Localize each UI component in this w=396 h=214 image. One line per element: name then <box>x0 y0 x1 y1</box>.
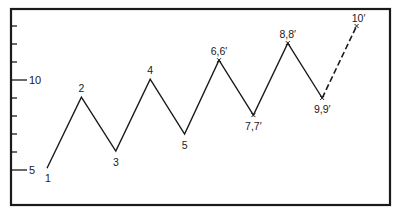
y-tick-label: 10 <box>29 74 41 86</box>
point-labels: 123456,6′7,7′8,8′9,9′10′ <box>45 12 365 184</box>
y-tick-label: 5 <box>29 164 35 176</box>
point-label: 6,6′ <box>211 45 228 57</box>
point-label: 2 <box>78 82 84 94</box>
point-label: 3 <box>113 156 119 168</box>
point-label: 8,8′ <box>280 28 297 40</box>
point-label: 10′ <box>352 12 366 24</box>
point-label: 5 <box>182 139 188 151</box>
point-label: 7,7′ <box>245 120 262 132</box>
point-label: 4 <box>147 64 153 76</box>
zigzag-chart: 510 123456,6′7,7′8,8′9,9′10′ <box>0 0 396 214</box>
chart-frame <box>11 9 390 205</box>
y-axis: 510 <box>11 26 41 176</box>
point-label: 9,9′ <box>314 103 331 115</box>
plot-lines <box>47 26 357 168</box>
point-label: 1 <box>45 172 51 184</box>
projected-line <box>322 26 356 98</box>
